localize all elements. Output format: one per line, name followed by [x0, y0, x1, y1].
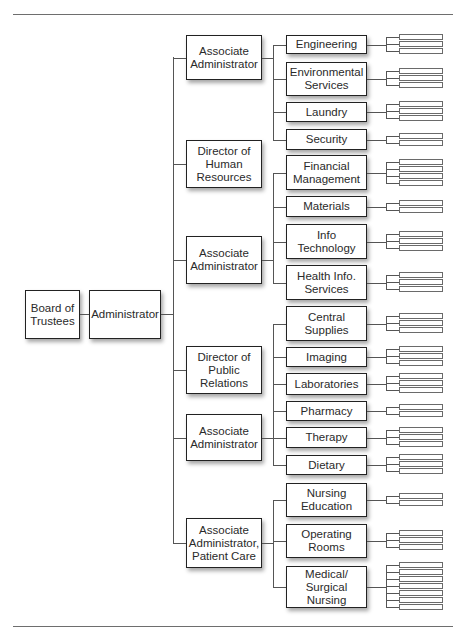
- connector-line: [273, 384, 286, 385]
- sub-unit-box: [399, 75, 443, 81]
- connector-line: [367, 438, 386, 439]
- connector-line: [386, 136, 399, 137]
- connector-line: [386, 600, 399, 601]
- department-box: Environmental Services: [286, 62, 367, 96]
- connector-line: [386, 316, 399, 317]
- department-box: Health Info. Services: [286, 265, 367, 300]
- department-trunk-line: [273, 45, 274, 141]
- connector-line: [386, 579, 399, 580]
- sub-unit-box: [399, 286, 443, 292]
- connector-line: [161, 314, 173, 315]
- department-box: Central Supplies: [286, 306, 367, 341]
- department-box: Pharmacy: [286, 401, 367, 421]
- connector-line: [386, 437, 399, 438]
- connector-line: [386, 533, 399, 534]
- connector-line: [386, 390, 399, 391]
- connector-line: [386, 289, 399, 290]
- department-box: Engineering: [286, 35, 367, 54]
- department-box: Operating Rooms: [286, 524, 367, 558]
- connector-line: [367, 112, 386, 113]
- sub-unit-box: [399, 461, 443, 467]
- connector-line: [367, 324, 386, 325]
- connector-line: [173, 58, 186, 59]
- connector-line: [262, 58, 273, 59]
- department-box: Medical/ Surgical Nursing: [286, 566, 367, 608]
- connector-line: [386, 496, 399, 497]
- connector-line: [80, 314, 89, 315]
- connector-line: [173, 370, 186, 371]
- connector-line: [273, 140, 286, 141]
- connector-line: [367, 384, 386, 385]
- connector-line: [386, 323, 399, 324]
- connector-line: [367, 173, 386, 174]
- connector-line: [386, 104, 399, 105]
- sub-unit-box: [399, 279, 443, 285]
- connector-line: [367, 79, 386, 80]
- connector-line: [386, 572, 399, 573]
- connector-line: [386, 248, 399, 249]
- connector-line: [386, 457, 399, 458]
- sub-unit-bracket: [386, 162, 387, 184]
- connector-line: [173, 164, 186, 165]
- connector-line: [273, 283, 286, 284]
- sub-unit-box: [399, 101, 443, 107]
- connector-line: [386, 203, 399, 204]
- sub-unit-box: [399, 231, 443, 237]
- sub-unit-box: [399, 411, 443, 417]
- connector-line: [367, 411, 386, 412]
- sub-unit-box: [399, 166, 443, 172]
- sub-unit-box: [399, 41, 443, 47]
- sub-unit-box: [399, 34, 443, 40]
- connector-line: [367, 242, 386, 243]
- connector-line: [386, 503, 399, 504]
- sub-unit-box: [399, 454, 443, 460]
- division-box: Associate Administrator: [186, 35, 262, 80]
- sub-unit-box: [399, 207, 443, 213]
- connector-line: [262, 543, 273, 544]
- sub-unit-box: [399, 537, 443, 543]
- sub-unit-box: [399, 272, 443, 278]
- connector-line: [386, 464, 399, 465]
- top-rule: [13, 14, 453, 15]
- sub-unit-box: [399, 180, 443, 186]
- sub-unit-box: [399, 468, 443, 474]
- sub-unit-box: [399, 353, 443, 359]
- sub-unit-box: [399, 387, 443, 393]
- connector-line: [386, 51, 399, 52]
- connector-line: [386, 547, 399, 548]
- connector-line: [173, 438, 186, 439]
- connector-line: [386, 593, 399, 594]
- department-box: Security: [286, 129, 367, 150]
- connector-line: [386, 210, 399, 211]
- connector-line: [367, 140, 386, 141]
- department-trunk-line: [273, 500, 274, 588]
- connector-line: [273, 45, 286, 46]
- connector-line: [273, 587, 286, 588]
- connector-line: [386, 607, 399, 608]
- sub-unit-box: [399, 530, 443, 536]
- connector-line: [386, 275, 399, 276]
- connector-line: [367, 587, 386, 588]
- sub-unit-box: [399, 48, 443, 54]
- department-trunk-line: [273, 324, 274, 466]
- connector-line: [386, 349, 399, 350]
- division-box: Associate Administrator: [186, 236, 262, 284]
- connector-line: [273, 324, 286, 325]
- connector-line: [273, 112, 286, 113]
- connector-line: [367, 207, 386, 208]
- connector-line: [367, 357, 386, 358]
- connector-line: [367, 465, 386, 466]
- administrator-box: Administrator: [89, 290, 161, 339]
- department-box: Dietary: [286, 455, 367, 475]
- sub-unit-box: [399, 441, 443, 447]
- department-box: Nursing Education: [286, 483, 367, 517]
- sub-unit-box: [399, 245, 443, 251]
- department-trunk-line: [273, 173, 274, 284]
- connector-line: [386, 586, 399, 587]
- connector-line: [367, 541, 386, 542]
- connector-line: [386, 143, 399, 144]
- board-of-trustees-box: Board of Trustees: [25, 290, 80, 339]
- connector-line: [386, 540, 399, 541]
- sub-unit-box: [399, 360, 443, 366]
- connector-line: [273, 173, 286, 174]
